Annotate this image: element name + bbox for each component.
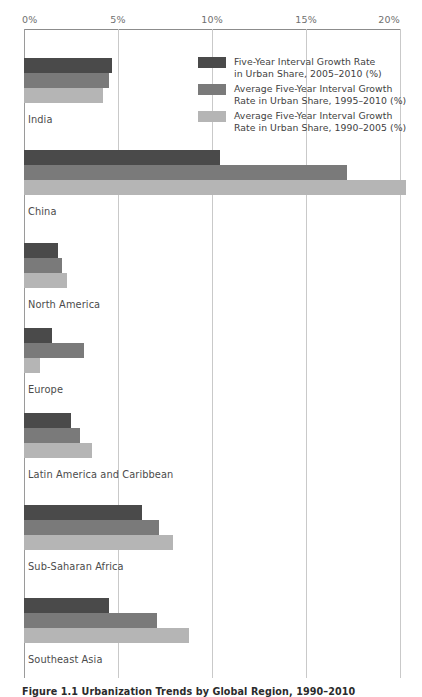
legend-swatch-icon [198, 57, 226, 68]
x-tick-label-20pct: 20% [378, 14, 400, 25]
bar-group: Sub-Saharan Africa [0, 505, 422, 580]
bar [24, 520, 159, 535]
category-label: Latin America and Caribbean [28, 469, 173, 480]
category-label: Sub-Saharan Africa [28, 561, 124, 572]
x-tick-label-15pct: 15% [295, 14, 317, 25]
bar [24, 273, 67, 288]
bar [24, 598, 109, 613]
category-label: North America [28, 299, 100, 310]
bar [24, 243, 58, 258]
category-label: India [28, 114, 53, 125]
x-tick-label-10pct: 10% [201, 14, 223, 25]
bar-group: China [0, 150, 422, 225]
bar [24, 505, 142, 520]
bar [24, 628, 189, 643]
chart-legend: Five-Year Interval Growth Rate in Urban … [198, 56, 406, 138]
bar [24, 58, 112, 73]
bar [24, 73, 109, 88]
bar [24, 535, 173, 550]
bar [24, 180, 406, 195]
x-tick-label-0pct: 0% [22, 14, 37, 25]
bar [24, 613, 157, 628]
bar [24, 413, 71, 428]
legend-item: Average Five-Year Interval Growth Rate i… [198, 83, 406, 106]
bar [24, 343, 84, 358]
bar [24, 150, 220, 165]
bar [24, 88, 103, 103]
legend-label: Average Five-Year Interval Growth Rate i… [234, 83, 406, 106]
bar-group: Southeast Asia [0, 598, 422, 673]
bar [24, 328, 52, 343]
legend-item: Average Five-Year Interval Growth Rate i… [198, 110, 406, 133]
bar [24, 358, 40, 373]
bar-group: Latin America and Caribbean [0, 413, 422, 488]
legend-item: Five-Year Interval Growth Rate in Urban … [198, 56, 406, 79]
bar-group: North America [0, 243, 422, 318]
category-label: China [28, 206, 56, 217]
bar [24, 443, 92, 458]
legend-label: Average Five-Year Interval Growth Rate i… [234, 110, 406, 133]
legend-swatch-icon [198, 111, 226, 122]
category-label: Europe [28, 384, 63, 395]
legend-label: Five-Year Interval Growth Rate in Urban … [234, 56, 382, 79]
category-label: Southeast Asia [28, 654, 103, 665]
figure-caption: Figure 1.1 Urbanization Trends by Global… [22, 686, 418, 697]
legend-swatch-icon [198, 84, 226, 95]
bar [24, 428, 80, 443]
x-tick-label-5pct: 5% [110, 14, 125, 25]
bar [24, 165, 347, 180]
bar [24, 258, 62, 273]
bar-group: Europe [0, 328, 422, 403]
